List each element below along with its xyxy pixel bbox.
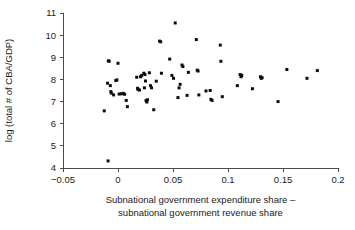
data-point <box>146 98 149 101</box>
data-point <box>195 38 198 41</box>
x-tick-label: 0.2 <box>331 174 344 185</box>
data-point <box>115 78 118 81</box>
data-point <box>179 83 182 86</box>
plot-canvas: 4567891011 −0.0500.050.10.150.2 log (tot… <box>0 0 355 230</box>
y-tick-label: 8 <box>51 74 56 85</box>
data-point <box>205 89 208 92</box>
y-tick-label: 11 <box>46 7 56 18</box>
data-point <box>143 86 146 89</box>
data-point <box>135 76 138 79</box>
data-point <box>186 94 189 97</box>
data-point <box>305 77 308 80</box>
data-point <box>103 109 106 112</box>
data-point <box>106 82 109 85</box>
data-point <box>172 77 175 80</box>
x-axis-tick-labels: −0.0500.050.10.150.2 <box>51 174 345 185</box>
x-tick-label: 0.15 <box>274 174 293 185</box>
x-axis-title-line1: Subnational government expenditure share… <box>106 194 296 205</box>
data-point <box>316 69 319 72</box>
data-point <box>160 72 163 75</box>
y-tick-label: 5 <box>51 140 56 151</box>
data-point <box>168 58 171 61</box>
y-tick-label: 9 <box>51 52 56 63</box>
data-point <box>159 40 162 43</box>
data-point <box>174 21 177 24</box>
data-point <box>143 73 146 76</box>
data-point <box>112 93 115 96</box>
data-point <box>176 96 179 99</box>
x-axis-title-line2: subnational government revenue share <box>118 207 283 218</box>
y-axis-tick-labels: 4567891011 <box>45 7 56 173</box>
data-point <box>261 76 264 79</box>
data-point <box>187 71 190 74</box>
data-point <box>148 71 151 74</box>
x-tick-label: 0.1 <box>221 174 234 185</box>
x-tick-label: 0.05 <box>164 174 183 185</box>
data-point <box>170 74 173 77</box>
data-point <box>197 93 200 96</box>
scatter-plot-figure: 4567891011 −0.0500.050.10.150.2 log (tot… <box>0 0 355 230</box>
data-point <box>240 74 243 77</box>
y-tick-label: 10 <box>45 30 56 41</box>
data-point <box>125 99 128 102</box>
y-tick-label: 7 <box>51 96 56 107</box>
data-point <box>236 84 239 87</box>
x-axis-tick-marks <box>63 168 338 172</box>
data-point <box>277 100 280 103</box>
y-tick-label: 6 <box>51 118 56 129</box>
data-point <box>126 105 129 108</box>
x-tick-label: −0.05 <box>51 174 75 185</box>
data-point <box>285 68 288 71</box>
data-point <box>152 108 155 111</box>
data-point <box>117 62 120 65</box>
data-point <box>144 79 147 82</box>
data-point <box>211 99 214 102</box>
data-point <box>219 60 222 63</box>
data-point <box>178 86 181 89</box>
data-points <box>103 21 319 162</box>
y-tick-label: 4 <box>51 162 56 173</box>
data-point <box>181 65 184 68</box>
data-point <box>251 87 254 90</box>
data-point <box>219 44 222 47</box>
data-point <box>209 89 212 92</box>
data-point <box>107 159 110 162</box>
y-axis-title: log (total # of CBA/GDP) <box>3 39 14 142</box>
data-point <box>197 70 200 73</box>
data-point <box>109 84 112 87</box>
data-point <box>155 80 158 83</box>
data-point <box>138 89 141 92</box>
data-point <box>221 95 224 98</box>
data-point <box>150 86 153 89</box>
data-point <box>108 60 111 63</box>
x-tick-label: 0 <box>115 174 120 185</box>
data-point <box>123 93 126 96</box>
